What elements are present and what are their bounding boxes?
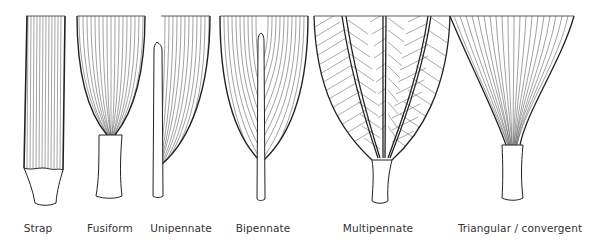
- label-fusiform: Fusiform: [87, 222, 133, 234]
- label-bipennate: Bipennate: [236, 222, 290, 234]
- multipennate-muscle: [310, 8, 452, 203]
- triangular-muscle: [450, 16, 574, 200]
- bipennate-muscle: [220, 16, 308, 201]
- label-strap: Strap: [24, 222, 53, 234]
- fusiform-muscle: [77, 16, 145, 198]
- unipennate-muscle: [153, 16, 210, 198]
- label-multipennate: Multipennate: [343, 222, 413, 234]
- strap-muscle: [24, 16, 65, 205]
- label-triangular-convergent: Triangular / convergent: [458, 222, 582, 234]
- label-unipennate: Unipennate: [150, 222, 212, 234]
- muscle-architecture-diagram: [0, 0, 590, 244]
